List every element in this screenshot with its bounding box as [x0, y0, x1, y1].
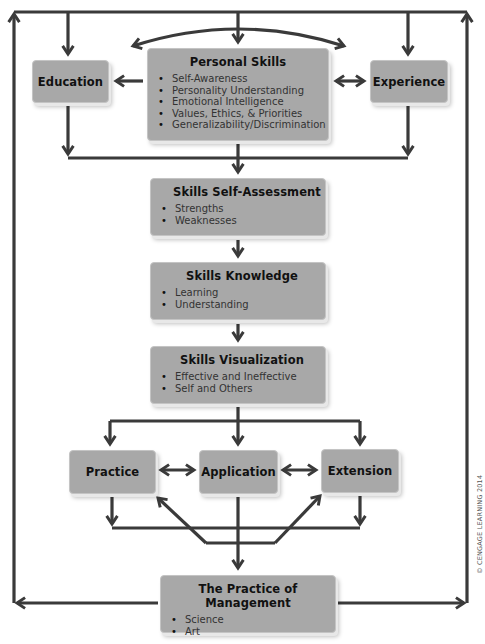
list-item: Self and Others [161, 383, 325, 395]
management-box: The Practice of Management Science Art [160, 575, 336, 633]
application-title: Application [201, 465, 275, 479]
diagonal-to-extension [275, 496, 320, 543]
practice-box: Practice [69, 450, 156, 494]
list-item: Effective and Ineffective [161, 371, 325, 383]
list-item: Learning [161, 287, 325, 299]
list-item: Science [171, 614, 335, 626]
personal-skills-box: Personal Skills Self-Awareness Personali… [147, 48, 329, 141]
list-item: Weaknesses [161, 215, 325, 227]
education-title: Education [38, 75, 103, 89]
self-assessment-title: Skills Self-Assessment [151, 185, 325, 199]
list-item: Strengths [161, 203, 325, 215]
list-item: Art [171, 626, 335, 638]
visualization-box: Skills Visualization Effective and Ineff… [150, 346, 326, 404]
list-item: Emotional Intelligence [158, 96, 328, 108]
list-item: Understanding [161, 299, 325, 311]
list-item: Values, Ethics, & Priorities [158, 108, 328, 120]
knowledge-list: Learning Understanding [151, 287, 325, 310]
management-list: Science Art [161, 614, 335, 637]
list-item: Personality Understanding [158, 85, 328, 97]
copyright-notice: © CENGAGE LEARNING 2014 [476, 475, 484, 574]
list-item: Generalizability/Discrimination [158, 119, 328, 131]
knowledge-title: Skills Knowledge [151, 269, 325, 283]
knowledge-box: Skills Knowledge Learning Understanding [150, 262, 326, 320]
personal-skills-title: Personal Skills [148, 55, 328, 69]
personal-skills-list: Self-Awareness Personality Understanding… [148, 73, 328, 131]
management-title: The Practice of Management [161, 582, 335, 610]
application-box: Application [199, 450, 278, 494]
experience-title: Experience [373, 75, 446, 89]
visualization-list: Effective and Ineffective Self and Other… [151, 371, 325, 394]
extension-box: Extension [321, 449, 399, 493]
list-item: Self-Awareness [158, 73, 328, 85]
visualization-title: Skills Visualization [151, 353, 325, 367]
diagonal-to-practice [158, 498, 206, 543]
extension-title: Extension [328, 464, 393, 478]
experience-box: Experience [370, 60, 448, 103]
self-assessment-list: Strengths Weaknesses [151, 203, 325, 226]
education-box: Education [32, 60, 109, 103]
self-assessment-box: Skills Self-Assessment Strengths Weaknes… [150, 178, 326, 236]
practice-title: Practice [86, 465, 140, 479]
